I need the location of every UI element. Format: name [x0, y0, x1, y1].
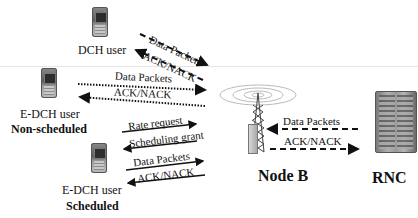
rnc-label: RNC: [372, 170, 407, 186]
iub-ack-label: ACK/NACK: [284, 136, 341, 147]
node-b-label: Node B: [258, 168, 308, 184]
edch-scheduled-phone-icon: [91, 143, 107, 173]
dch-user-phone-icon: [92, 7, 108, 37]
node-b-cabinet-icon: [248, 124, 258, 154]
edch-scheduled-sublabel: Scheduled: [66, 200, 119, 212]
dch-user-label: DCH user: [78, 44, 126, 56]
iub-data-label: Data Packets: [283, 116, 340, 127]
edch-nonscheduled-sublabel: Non-scheduled: [11, 123, 87, 135]
rnc-server-icon: [375, 91, 417, 153]
edch-scheduled-label: E-DCH user: [62, 184, 122, 196]
edch-nonscheduled-phone-icon: [41, 68, 57, 98]
edch-nonscheduled-label: E-DCH user: [20, 108, 80, 120]
